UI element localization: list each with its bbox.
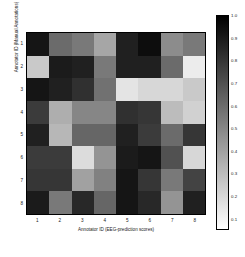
heatmap-cell	[161, 78, 183, 101]
x-tick-label: 2	[49, 216, 72, 226]
heatmap-cell	[49, 56, 71, 79]
heatmap-cell	[116, 169, 138, 192]
heatmap-cell	[72, 146, 94, 169]
x-tick-label: 5	[116, 216, 139, 226]
heatmap-cell	[49, 33, 71, 56]
heatmap-cell	[183, 56, 205, 79]
colorbar-tick-label: 1.0	[231, 13, 237, 18]
heatmap-cell	[49, 169, 71, 192]
heatmap-cell	[116, 146, 138, 169]
heatmap-cell	[27, 56, 49, 79]
heatmap-cell	[116, 191, 138, 214]
y-tick-label: 8	[14, 192, 24, 215]
heatmap-cell	[72, 33, 94, 56]
heatmap-cell	[72, 191, 94, 214]
heatmap-cell	[27, 78, 49, 101]
heatmap-cell	[94, 33, 116, 56]
heatmap-cell	[49, 124, 71, 147]
heatmap-cell	[27, 33, 49, 56]
heatmap-cell	[161, 146, 183, 169]
heatmap-cell	[161, 101, 183, 124]
heatmap-cell	[183, 78, 205, 101]
heatmap-cell	[72, 78, 94, 101]
heatmap-cell	[72, 56, 94, 79]
heatmap-cell	[27, 169, 49, 192]
heatmap-cell	[183, 169, 205, 192]
colorbar-tick-label: 0.2	[231, 194, 237, 199]
heatmap-cell	[94, 56, 116, 79]
colorbar-tick-label: 0.6	[231, 103, 237, 108]
heatmap-cell	[161, 169, 183, 192]
colorbar-tick-label: 0.8	[231, 58, 237, 63]
y-tick-label: 1	[14, 32, 24, 55]
heatmap-cell	[94, 146, 116, 169]
heatmap-cell	[138, 124, 160, 147]
heatmap-cell	[94, 169, 116, 192]
x-tick-label: 6	[139, 216, 162, 226]
y-tick-label: 2	[14, 55, 24, 78]
heatmap-cell	[27, 101, 49, 124]
heatmap-cell	[183, 101, 205, 124]
x-tick-label: 4	[94, 216, 117, 226]
heatmap-cell	[116, 33, 138, 56]
y-axis-tick-labels: 12345678	[14, 32, 24, 215]
y-tick-label: 4	[14, 101, 24, 124]
colorbar-tick-label: 0.9	[231, 35, 237, 40]
heatmap-cell	[72, 101, 94, 124]
heatmap-cell	[27, 124, 49, 147]
heatmap-cell	[49, 101, 71, 124]
colorbar-tick-labels: 1.00.90.80.70.60.50.40.30.20.1	[230, 15, 245, 230]
heatmap-cell	[161, 56, 183, 79]
colorbar	[216, 15, 229, 230]
colorbar-gradient	[217, 16, 228, 229]
heatmap-cell	[94, 101, 116, 124]
heatmap-grid	[27, 33, 205, 214]
heatmap-cell	[138, 169, 160, 192]
colorbar-tick-label: 0.5	[231, 126, 237, 131]
heatmap-plot-area	[26, 32, 206, 215]
colorbar-tick-label: 0.3	[231, 171, 237, 176]
y-tick-label: 5	[14, 124, 24, 147]
y-tick-label: 7	[14, 169, 24, 192]
y-tick-label: 3	[14, 78, 24, 101]
heatmap-cell	[161, 33, 183, 56]
x-tick-label: 3	[71, 216, 94, 226]
heatmap-cell	[138, 191, 160, 214]
heatmap-cell	[138, 56, 160, 79]
heatmap-cell	[161, 191, 183, 214]
y-tick-label: 6	[14, 146, 24, 169]
heatmap-cell	[183, 146, 205, 169]
heatmap-cell	[49, 146, 71, 169]
heatmap-cell	[27, 191, 49, 214]
colorbar-tick-label: 0.1	[231, 216, 237, 221]
heatmap-cell	[183, 191, 205, 214]
x-tick-label: 7	[161, 216, 184, 226]
heatmap-cell	[94, 78, 116, 101]
heatmap-cell	[138, 146, 160, 169]
heatmap-cell	[27, 146, 49, 169]
heatmap-cell	[161, 124, 183, 147]
x-tick-label: 8	[184, 216, 207, 226]
x-tick-label: 1	[26, 216, 49, 226]
heatmap-cell	[116, 56, 138, 79]
heatmap-cell	[94, 124, 116, 147]
heatmap-cell	[72, 124, 94, 147]
heatmap-cell	[116, 124, 138, 147]
x-axis-label: Annotator ID (EEG-prediction scores)	[26, 227, 206, 232]
heatmap-cell	[138, 78, 160, 101]
x-axis-tick-labels: 12345678	[26, 216, 206, 226]
heatmap-figure: Annotator ID (Manual Annotations) 123456…	[0, 0, 245, 257]
heatmap-cell	[116, 101, 138, 124]
heatmap-cell	[49, 191, 71, 214]
heatmap-cell	[183, 124, 205, 147]
heatmap-cell	[72, 169, 94, 192]
colorbar-tick-label: 0.7	[231, 80, 237, 85]
heatmap-cell	[94, 191, 116, 214]
heatmap-cell	[49, 78, 71, 101]
heatmap-cell	[116, 78, 138, 101]
heatmap-cell	[183, 33, 205, 56]
colorbar-tick-label: 0.4	[231, 148, 237, 153]
heatmap-cell	[138, 33, 160, 56]
heatmap-cell	[138, 101, 160, 124]
